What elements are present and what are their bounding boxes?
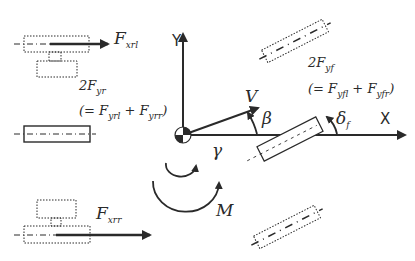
symbol: F <box>316 55 325 70</box>
velocity-vector <box>183 108 258 135</box>
label-delta-f: δf <box>336 110 350 130</box>
subscript: yr <box>96 86 105 96</box>
subscript: yf <box>325 63 333 73</box>
label-velocity: V <box>245 88 257 105</box>
b: F <box>140 103 149 118</box>
center-of-gravity-icon <box>175 127 191 143</box>
b-sub: yfr <box>376 89 389 99</box>
vehicle-dynamics-diagram: Y X Fxrl 2Fyr (= Fyrl + Fyrr) 2Fyf (= Fy… <box>0 0 415 261</box>
a-sub: yfl <box>337 89 348 99</box>
front-center-wheel <box>244 117 323 168</box>
plus: + <box>348 81 367 96</box>
label-moment: M <box>216 202 233 219</box>
yaw-rate-arc <box>166 163 196 177</box>
label-fyr-sum: (= Fyrl + Fyrr) <box>79 104 167 121</box>
symbol: F <box>96 203 108 223</box>
a: F <box>328 81 337 96</box>
eq-close: ) <box>162 103 167 118</box>
symbol: F <box>87 78 96 93</box>
label-fxrl: Fxrl <box>114 30 138 50</box>
b-sub: yrr <box>149 111 163 121</box>
rear-right-wheel <box>14 200 90 243</box>
x-axis-label: X <box>380 112 390 127</box>
diagram-graphics <box>0 0 415 261</box>
yaw-moment-arc <box>153 181 219 212</box>
y-axis-label: Y <box>172 34 181 49</box>
label-2fyr: 2Fyr <box>79 79 106 96</box>
label-2fyf: 2Fyf <box>308 56 334 73</box>
plus: + <box>120 103 139 118</box>
a-sub: yrl <box>108 111 120 121</box>
symbol: F <box>114 28 126 48</box>
front-right-wheel <box>248 203 326 252</box>
subscript: xrl <box>126 40 138 50</box>
label-gamma: γ <box>212 142 222 159</box>
eq-close: ) <box>389 81 394 96</box>
label-fxrr: Fxrr <box>96 205 121 225</box>
a: F <box>99 103 108 118</box>
subscript: xrr <box>108 215 122 225</box>
rear-left-wheel <box>14 36 89 77</box>
label-beta: β <box>262 110 272 127</box>
subscript: f <box>346 120 349 130</box>
eq-open: (= <box>79 103 99 118</box>
symbol: δ <box>336 108 346 128</box>
rear-center-wheel <box>14 126 96 142</box>
label-fyf-sum: (= Fyfl + Fyfr) <box>308 82 394 99</box>
slip-angle-arc <box>248 113 257 134</box>
eq-open: (= <box>308 81 328 96</box>
